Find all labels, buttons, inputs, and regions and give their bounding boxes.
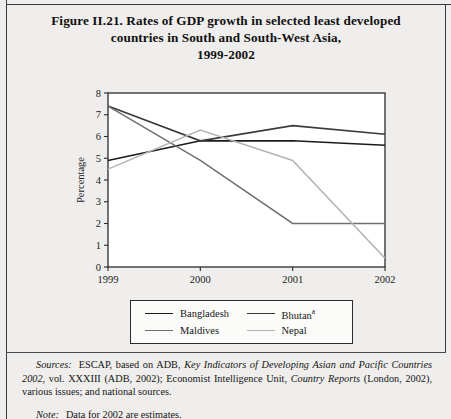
y-tick-label: 0: [96, 262, 101, 273]
y-tick-label: 4: [96, 175, 102, 186]
x-tick-label: 2002: [375, 274, 396, 285]
y-tick-label: 8: [96, 88, 101, 99]
y-tick-label: 7: [96, 109, 101, 120]
plot-frame: [108, 93, 385, 267]
line-chart: 012345678 1999200020012002 Percentage: [0, 0, 451, 300]
chart-plot-area: 012345678 1999200020012002 Percentage: [0, 0, 451, 300]
legend-label-bangladesh: Bangladesh: [180, 308, 229, 319]
legend-swatch-maldives: [145, 330, 173, 331]
x-axis-tick-labels: 1999200020012002: [98, 274, 396, 285]
x-tick-label: 1999: [98, 274, 119, 285]
note-line: Note:Data for 2002 are estimates.: [22, 408, 432, 419]
note-text: Data for 2002 are estimates.: [66, 409, 182, 419]
legend-item-bangladesh[interactable]: Bangladesh: [145, 308, 243, 319]
figure-page: Figure II.21. Rates of GDP growth in sel…: [0, 0, 451, 419]
sources-label: Sources:: [36, 359, 72, 370]
legend-item-bhutan[interactable]: Bhutana: [247, 307, 345, 321]
note-label: Note:: [36, 409, 59, 419]
legend-swatch-nepal: [247, 330, 275, 331]
y-tick-label: 6: [96, 131, 101, 142]
y-tick-label: 1: [96, 240, 101, 251]
chart-legend: BangladeshBhutanaMaldivesNepal: [130, 300, 353, 344]
figure-footnotes: Sources:ESCAP, based on ADB, Key Indicat…: [22, 358, 432, 419]
sources-text-2: , vol. XXXIII (ADB, 2002); Economist Int…: [43, 373, 291, 384]
legend-item-maldives[interactable]: Maldives: [145, 325, 243, 336]
legend-label-bhutan: Bhutana: [282, 307, 316, 321]
y-axis-tick-labels: 012345678: [96, 88, 102, 273]
legend-label-maldives: Maldives: [180, 325, 219, 336]
sources-note: Sources:ESCAP, based on ADB, Key Indicat…: [22, 358, 432, 399]
legend-superscript: a: [312, 307, 315, 316]
x-tick-label: 2000: [190, 274, 211, 285]
legend-swatch-bangladesh: [145, 313, 173, 314]
y-axis-title: Percentage: [75, 157, 86, 203]
legend-swatch-bhutan: [247, 313, 275, 314]
y-tick-label: 5: [96, 153, 101, 164]
legend-label-nepal: Nepal: [282, 325, 307, 336]
x-tick-label: 2001: [282, 274, 303, 285]
y-tick-label: 3: [96, 196, 101, 207]
page-rule-bottom: [6, 352, 446, 353]
legend-item-nepal[interactable]: Nepal: [247, 325, 345, 336]
sources-text-1: ESCAP, based on ADB,: [79, 359, 185, 370]
y-tick-label: 2: [96, 218, 101, 229]
sources-italic-2: Country Reports: [291, 373, 360, 384]
